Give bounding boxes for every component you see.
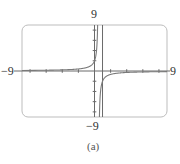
y-max-label: 9	[91, 8, 97, 20]
figure-caption: (a)	[87, 140, 99, 152]
axes	[14, 25, 170, 117]
y-min-label: −9	[86, 120, 99, 132]
x-max-label: 9	[170, 65, 176, 77]
curve-left-branch	[22, 25, 98, 70]
graph-figure: 9 −9 −9 9 (a)	[0, 0, 180, 164]
curve-right-branch	[99, 72, 167, 117]
x-min-label: −9	[1, 65, 14, 77]
